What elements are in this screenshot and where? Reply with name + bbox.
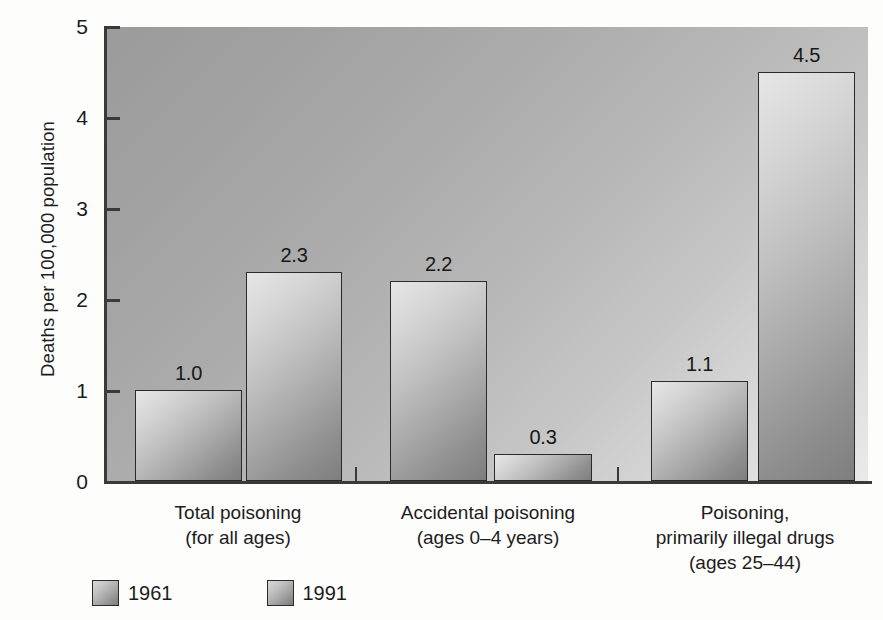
bar-accidental-poisoning-1961 [390,281,487,481]
bar-value-total-poisoning-1991: 2.3 [246,244,342,267]
legend-entry-1961: 1961 [92,580,173,606]
bar-illegal-drugs-1991 [758,72,855,481]
y-tick-label-2: 2 [48,288,88,312]
x-category-label-group-1-line-1: Total poisoning [118,500,358,525]
legend-swatch-1961 [92,580,119,606]
x-category-label-group-3: Poisoning, primarily illegal drugs (ages… [625,500,865,575]
y-tick-mark-4 [106,117,120,120]
bar-value-illegal-drugs-1961: 1.1 [651,353,748,376]
x-category-label-group-2-line-2: (ages 0–4 years) [368,525,608,550]
y-tick-label-3: 3 [48,197,88,221]
legend-label-1991: 1991 [303,582,348,605]
x-category-label-group-2: Accidental poisoning (ages 0–4 years) [368,500,608,550]
legend-swatch-1991 [267,580,294,606]
bar-total-poisoning-1961 [135,390,242,481]
x-category-label-group-2-line-1: Accidental poisoning [368,500,608,525]
bar-value-illegal-drugs-1991: 4.5 [758,44,855,67]
bar-total-poisoning-1991 [246,272,342,481]
x-group-divider-1 [355,467,357,482]
y-axis-line [104,26,107,482]
x-category-label-group-3-line-3: (ages 25–44) [625,550,865,575]
y-axis-title: Deaths per 100,000 population [37,29,59,469]
bar-value-accidental-poisoning-1961: 2.2 [390,253,487,276]
legend-entry-1991: 1991 [267,580,348,606]
bar-accidental-poisoning-1991 [494,454,592,481]
y-tick-label-0: 0 [48,470,88,494]
y-tick-mark-3 [106,208,120,211]
x-category-label-group-1-line-2: (for all ages) [118,525,358,550]
y-tick-label-1: 1 [48,379,88,403]
y-tick-mark-1 [106,390,120,393]
bar-illegal-drugs-1961 [651,381,748,481]
bar-value-total-poisoning-1961: 1.0 [135,362,242,385]
y-tick-mark-2 [106,299,120,302]
x-group-divider-2 [617,467,619,482]
bar-value-accidental-poisoning-1991: 0.3 [494,426,592,449]
y-tick-mark-5 [106,26,120,29]
bar-chart: Deaths per 100,000 population 5 4 3 2 1 … [0,0,883,620]
legend: 1961 1991 [92,580,347,606]
legend-label-1961: 1961 [128,582,173,605]
x-category-label-group-3-line-2: primarily illegal drugs [625,525,865,550]
y-tick-label-5: 5 [48,15,88,39]
x-category-label-group-3-line-1: Poisoning, [625,500,865,525]
x-axis-line [104,481,872,484]
y-tick-label-4: 4 [48,106,88,130]
x-category-label-group-1: Total poisoning (for all ages) [118,500,358,550]
